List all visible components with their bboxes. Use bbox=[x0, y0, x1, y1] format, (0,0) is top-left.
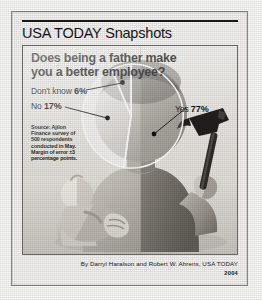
label-dont-know-text: Don't know bbox=[31, 86, 72, 96]
masthead-title: USA TODAY Snapshots bbox=[22, 25, 238, 41]
year-stamp: 2004 bbox=[22, 270, 238, 276]
snapshot-panel: Does being a father make you a better em… bbox=[22, 45, 238, 255]
masthead-rule bbox=[22, 20, 238, 22]
label-dont-know: Don't know 6% bbox=[31, 86, 87, 96]
label-dont-know-value: 6% bbox=[74, 86, 87, 96]
label-yes-value: 77% bbox=[191, 104, 209, 114]
label-yes-text: Yes bbox=[175, 104, 189, 114]
label-yes: Yes 77% bbox=[175, 104, 209, 114]
byline: By Darryl Haralson and Robert W. Ahrens,… bbox=[22, 260, 238, 267]
label-no: No 17% bbox=[31, 101, 62, 111]
source-note: Source: Ajilon Finance survey of 500 res… bbox=[31, 124, 81, 161]
masthead: USA TODAY Snapshots bbox=[22, 20, 238, 41]
snapshot-headline: Does being a father make you a better em… bbox=[31, 52, 181, 79]
label-no-text: No bbox=[31, 101, 42, 111]
snapshot-card: USA TODAY Snapshots bbox=[11, 11, 248, 286]
pie-slices bbox=[82, 64, 183, 168]
label-no-value: 17% bbox=[44, 101, 62, 111]
screenshot-page: USA TODAY Snapshots bbox=[0, 0, 262, 300]
pie-slice-yes bbox=[124, 64, 183, 168]
